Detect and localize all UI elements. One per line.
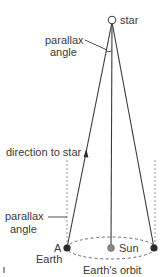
parallax-pointer-top — [85, 40, 107, 50]
earth-orbit-label: Earth's orbit — [83, 264, 141, 276]
parallax-label-bottom-line2: angle — [10, 223, 37, 235]
star-label: star — [120, 14, 139, 26]
parallax-label-top-line2: angle — [50, 46, 77, 58]
earth-left-marker — [63, 244, 70, 251]
sun-label: Sun — [119, 242, 139, 254]
arrowhead-icon — [84, 149, 89, 158]
sun-marker — [108, 245, 115, 252]
direction-to-star-label: direction to star — [6, 146, 82, 158]
parallax-diagram: star parallax angle direction to star pa… — [0, 0, 168, 277]
line-sun-to-star — [111, 22, 112, 248]
earth-right-marker — [150, 244, 157, 251]
line-earth-right-to-star — [112, 22, 154, 248]
parallax-label-bottom-line1: parallax — [5, 210, 44, 222]
star-marker — [108, 16, 116, 24]
parallax-label-top-line1: parallax — [45, 34, 84, 46]
parallax-angle-arc-top — [106, 51, 111, 52]
earth-a-name-label: Earth — [36, 253, 62, 265]
